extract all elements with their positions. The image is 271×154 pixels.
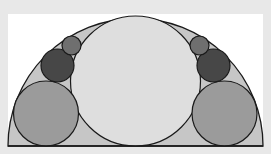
diagram-canvas [0, 0, 271, 154]
circle-packing-diagram [0, 0, 271, 154]
left-large-circle [14, 81, 79, 146]
center-circle [71, 16, 201, 146]
right-small-circle [190, 36, 209, 55]
left-small-circle [62, 36, 81, 55]
right-large-circle [192, 81, 257, 146]
